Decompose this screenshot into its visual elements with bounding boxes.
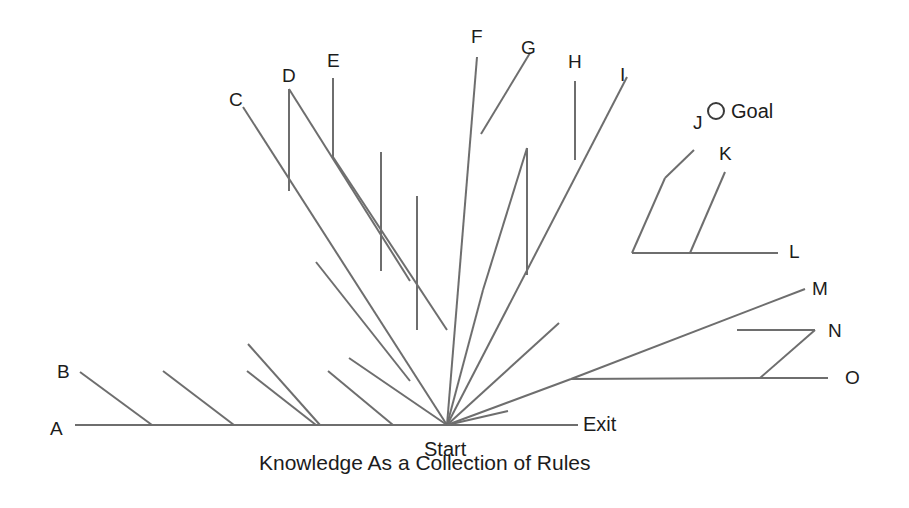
- goal-circle-icon: [708, 103, 724, 119]
- spur-B-1: [163, 371, 234, 425]
- branch-O-trunk: [571, 378, 760, 379]
- spur-B-3: [328, 371, 393, 425]
- branch-I-trunk: [447, 77, 627, 425]
- branch-J-upper: [665, 150, 694, 178]
- node-label-i: I: [620, 65, 625, 84]
- node-label-k: K: [719, 144, 732, 163]
- rules-diagram: ABCDEFGHIJKLMNO Goal Start Exit Knowledg…: [0, 0, 909, 508]
- branch-inner-right-1: [447, 323, 559, 425]
- node-label-b: B: [57, 362, 70, 381]
- rule-lines-group: [75, 53, 828, 425]
- branch-G-diagonal-lower: [483, 148, 527, 290]
- branch-K-diagonal: [690, 172, 725, 253]
- branch-N-diagonal: [760, 330, 815, 378]
- goal-label: Goal: [731, 101, 773, 121]
- node-label-o: O: [845, 368, 860, 387]
- node-label-m: M: [812, 279, 828, 298]
- node-label-d: D: [282, 66, 296, 85]
- branch-M-trunk: [571, 289, 805, 379]
- spur-B-2: [247, 371, 316, 425]
- node-label-l: L: [789, 242, 800, 261]
- diagram-title: Knowledge As a Collection of Rules: [259, 452, 591, 473]
- node-label-e: E: [327, 51, 340, 70]
- node-label-g: G: [521, 38, 536, 57]
- node-label-f: F: [471, 27, 483, 46]
- node-label-c: C: [229, 90, 243, 109]
- node-label-h: H: [568, 52, 582, 71]
- branch-G-diagonal-upper: [481, 53, 530, 134]
- node-label-a: A: [50, 419, 63, 438]
- node-label-j: J: [693, 113, 703, 132]
- branch-D-diagonal: [289, 89, 410, 281]
- branch-lower-right-trunk: [447, 379, 571, 425]
- diagram-canvas: [0, 0, 909, 508]
- spur-inner-left-1: [248, 344, 320, 425]
- exit-label: Exit: [583, 414, 616, 434]
- branch-J-lower: [632, 178, 665, 253]
- branch-B-trunk: [80, 372, 152, 425]
- spur-inner-left-2: [316, 262, 410, 381]
- spur-inner-left-3: [349, 358, 447, 425]
- node-label-n: N: [828, 321, 842, 340]
